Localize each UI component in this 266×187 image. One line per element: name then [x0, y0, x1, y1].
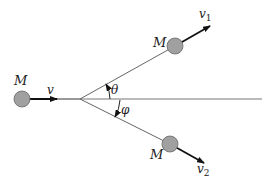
- label-mass-initial: M: [13, 73, 28, 88]
- mass-initial-ball: [14, 91, 30, 107]
- label-angle-theta: θ: [111, 83, 119, 97]
- mass-upper-ball: [167, 38, 183, 54]
- mass-lower-ball: [162, 136, 178, 152]
- collision-diagram: M v M v1 M v2 θ φ: [0, 0, 266, 187]
- label-velocity-upper: v1: [199, 7, 212, 23]
- label-angle-phi: φ: [121, 103, 130, 117]
- label-mass-upper: M: [152, 35, 167, 50]
- upper-path-line: [80, 46, 175, 99]
- label-velocity-lower: v2: [197, 162, 210, 178]
- phi-arc: [115, 100, 120, 117]
- label-velocity-initial: v: [47, 83, 54, 97]
- theta-arc: [106, 84, 110, 99]
- label-mass-lower: M: [149, 147, 164, 162]
